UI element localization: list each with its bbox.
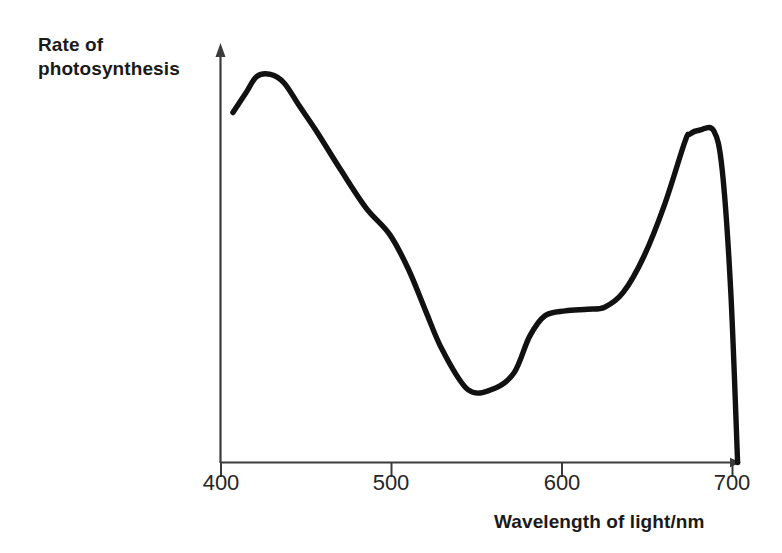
y-axis-arrow-icon: [216, 43, 226, 57]
chart-figure: Rate of photosynthesis 400 500 600 700 W…: [0, 0, 782, 553]
x-axis-ticks: [221, 463, 733, 478]
x-tick-label-600: 600: [522, 470, 602, 496]
x-tick-label-700: 700: [692, 470, 772, 496]
x-tick-label-400: 400: [181, 470, 261, 496]
x-axis: [221, 458, 742, 467]
y-axis: [216, 43, 226, 463]
action-spectrum-curve: [233, 74, 738, 463]
x-tick-label-500: 500: [351, 470, 431, 496]
x-axis-title: Wavelength of light/nm: [494, 510, 705, 534]
